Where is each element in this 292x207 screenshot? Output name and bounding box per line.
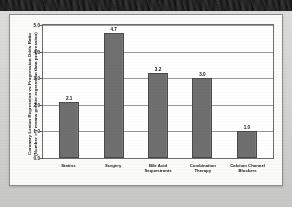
figure-card: Coronary Lesion Regression vs Progressio… — [9, 14, 283, 186]
scan-artifact-band — [0, 0, 292, 11]
x-axis-category-labels: StatinsSurgeryBile AcidSequestrantsCombi… — [42, 161, 274, 181]
bar-value-label: 3.2 — [155, 67, 161, 72]
bar[interactable] — [237, 131, 257, 158]
x-axis-category-label: Surgery — [91, 161, 136, 181]
x-axis-category-label-line: Therapy — [180, 168, 225, 173]
y-axis-tick-label: 1.0 — [34, 129, 40, 134]
bars-layer: 2.14.73.23.01.0 — [43, 25, 273, 158]
bar-slot: 4.7 — [91, 25, 135, 158]
bar[interactable] — [192, 78, 212, 158]
x-axis-category-label: Bile AcidSequestrants — [136, 161, 181, 181]
bar-value-label: 4.7 — [110, 27, 116, 32]
bar-value-label: 3.0 — [199, 72, 205, 77]
x-axis-category-label: Statins — [46, 161, 91, 181]
x-axis-category-label: CombinationTherapy — [180, 161, 225, 181]
bar-chart: Coronary Lesion Regression vs Progressio… — [10, 15, 282, 185]
y-axis-tick-label: 3.0 — [34, 76, 40, 81]
bar[interactable] — [148, 73, 168, 158]
x-axis-category-label-line: Sequestrants — [136, 168, 181, 173]
bar-slot: 1.0 — [225, 25, 269, 158]
y-axis-tick-label: 5.0 — [34, 23, 40, 28]
bar-slot: 3.2 — [136, 25, 180, 158]
x-axis-category-label: Calcium ChannelBlockers — [225, 161, 270, 181]
y-axis-tick-label: 0.0 — [34, 156, 40, 161]
bar-slot: 2.1 — [47, 25, 91, 158]
plot-area: 0.01.02.03.04.05.0 2.14.73.23.01.0 — [42, 24, 274, 159]
y-axis-tick-label: 4.0 — [34, 49, 40, 54]
x-axis-category-label-line: Blockers — [225, 168, 270, 173]
bar[interactable] — [104, 33, 124, 158]
bar-value-label: 2.1 — [66, 96, 72, 101]
y-axis-tick-mark — [40, 158, 43, 159]
bar[interactable] — [59, 102, 79, 158]
y-axis-title: Coronary Lesion Regression vs Progressio… — [23, 17, 43, 171]
x-axis-category-label-line: Surgery — [91, 163, 136, 168]
bar-value-label: 1.0 — [244, 125, 250, 130]
y-axis-tick-label: 2.0 — [34, 102, 40, 107]
bar-slot: 3.0 — [180, 25, 224, 158]
x-axis-category-label-line: Statins — [46, 163, 91, 168]
